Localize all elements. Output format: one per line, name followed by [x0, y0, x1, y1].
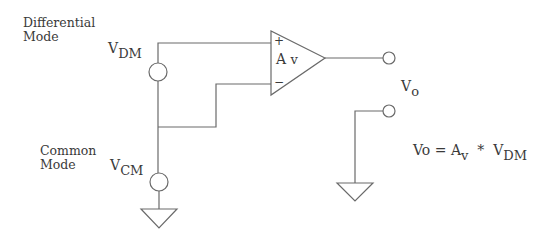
vcm-label: VCM [110, 157, 143, 178]
output-voltage-label: Vo [401, 78, 419, 99]
wire-output-ground [355, 111, 383, 183]
symbol-main: V [108, 40, 118, 56]
ground-terminal-icon [383, 105, 395, 117]
symbol-main: V [401, 78, 411, 94]
output-terminal-icon [383, 52, 395, 64]
wire-minus-input [158, 84, 271, 127]
differential-mode-label: Differential Mode [23, 16, 95, 44]
symbol-main: A [276, 51, 286, 67]
label-line: Mode [23, 30, 95, 44]
vcm-source-icon [150, 173, 168, 191]
symbol-sub: o [411, 84, 419, 99]
vdm-label: VDM [108, 40, 142, 61]
gain-equation: Vo = Av * VDM [413, 142, 527, 163]
ground-icon-left [141, 209, 177, 228]
opamp-minus-sign: − [274, 75, 284, 89]
wire-plus-input [158, 43, 271, 63]
opamp-plus-sign: + [274, 34, 284, 48]
opamp-gain-label: A v [276, 51, 298, 67]
label-line: Mode [40, 158, 96, 172]
equation-rhs: V [493, 142, 503, 158]
label-line: Common [40, 144, 96, 158]
symbol-main: V [110, 157, 120, 173]
symbol-sub: DM [118, 46, 142, 61]
equation-rhs-sub: DM [503, 148, 527, 163]
equation-gain: A [451, 142, 461, 158]
ground-icon-right [337, 183, 373, 201]
vdm-source-icon [149, 63, 167, 81]
symbol-sub: v [291, 52, 298, 67]
equation-lhs: Vo = [413, 142, 446, 158]
label-line: Differential [23, 16, 95, 30]
equation-operator: * [477, 142, 484, 158]
equation-gain-sub: v [461, 148, 468, 163]
common-mode-label: Common Mode [40, 144, 96, 172]
symbol-sub: CM [120, 163, 143, 178]
